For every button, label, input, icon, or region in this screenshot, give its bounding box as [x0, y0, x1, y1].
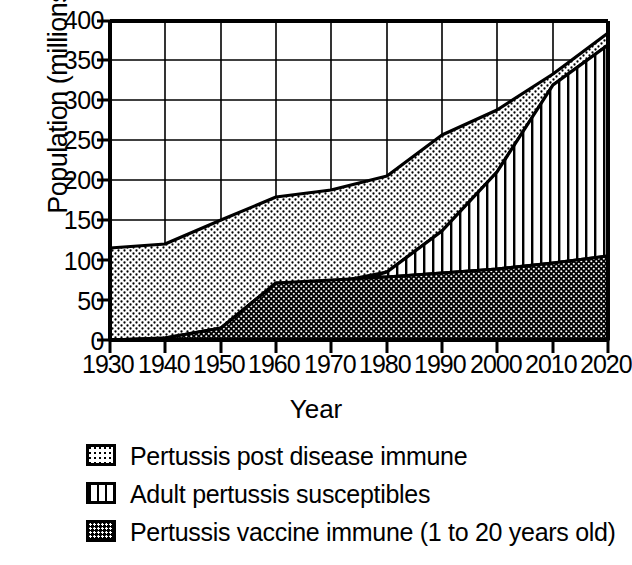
legend-label-vaccine-immune: Pertussis vaccine immune (1 to 20 years … [130, 518, 616, 547]
x-tick-2010: 2010 [525, 352, 577, 377]
light-stipple-swatch-icon [86, 444, 116, 466]
legend-item-vaccine-immune: Pertussis vaccine immune (1 to 20 years … [86, 516, 632, 554]
x-tick-2000: 2000 [470, 352, 522, 377]
x-tick-1950: 1950 [193, 352, 245, 377]
x-tick-1970: 1970 [304, 352, 356, 377]
x-tick-1980: 1980 [359, 352, 411, 377]
dark-checker-swatch-icon [86, 520, 116, 542]
x-tick-1930: 1930 [82, 352, 134, 377]
chart-legend: Pertussis post disease immune Adult pert… [86, 440, 632, 554]
plot-area [0, 0, 632, 360]
vertical-stripe-swatch-icon [86, 482, 116, 504]
x-tick-1940: 1940 [138, 352, 190, 377]
legend-label-post-disease-immune: Pertussis post disease immune [130, 442, 467, 471]
legend-label-adult-susceptibles: Adult pertussis susceptibles [130, 480, 430, 509]
x-axis-tick-labels: 1930 1940 1950 1960 1970 1980 1990 2000 … [0, 352, 632, 386]
legend-item-adult-susceptibles: Adult pertussis susceptibles [86, 478, 632, 516]
x-tick-2020: 2020 [580, 352, 632, 377]
x-axis-label: Year [0, 394, 632, 425]
x-tick-1990: 1990 [414, 352, 466, 377]
legend-item-post-disease-immune: Pertussis post disease immune [86, 440, 632, 478]
x-tick-1960: 1960 [248, 352, 300, 377]
pertussis-population-area-chart: Population (millions) 400 350 300 250 20… [0, 0, 632, 565]
